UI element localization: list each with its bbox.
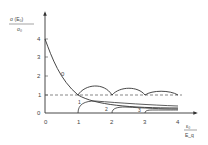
x-tick-label: 4 xyxy=(176,119,180,125)
x-axis-label-numerator: ε₀ xyxy=(186,123,190,129)
y-tick-label: 1 xyxy=(38,92,42,98)
y-tick-label: 2 xyxy=(37,73,41,79)
y-axis-label-numerator: σ (E₀) xyxy=(10,16,24,22)
x-axis-label-denominator: E_q xyxy=(185,132,194,138)
curve-0 xyxy=(45,39,178,108)
y-tick-label: 3 xyxy=(37,54,41,60)
curve-label-2: 2 xyxy=(105,106,108,112)
x-tick-label: 1 xyxy=(77,119,81,125)
y-tick-label: 4 xyxy=(37,36,41,42)
chart: 4 3 2 1 0 0 1 2 3 4 0 1 2 3 σ (E₀) σ₀ ε₀… xyxy=(0,0,208,145)
y-axis-label-denominator: σ₀ xyxy=(17,26,22,32)
curve-label-1: 1 xyxy=(78,99,81,105)
x-tick-label: 0 xyxy=(44,119,48,125)
x-tick-label: 3 xyxy=(143,119,147,125)
y-tick-label: 0 xyxy=(37,110,41,116)
curve-label-0: 0 xyxy=(61,71,65,77)
x-tick-label: 2 xyxy=(110,119,114,125)
curve-label-3: 3 xyxy=(138,107,141,113)
curve-envelope xyxy=(78,86,178,95)
